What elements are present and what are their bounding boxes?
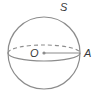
sphere-diagram: O A S [0, 0, 99, 91]
center-point [42, 51, 45, 54]
point-a-label: A [83, 47, 91, 59]
sphere-label: S [60, 1, 68, 13]
center-label: O [30, 47, 39, 59]
